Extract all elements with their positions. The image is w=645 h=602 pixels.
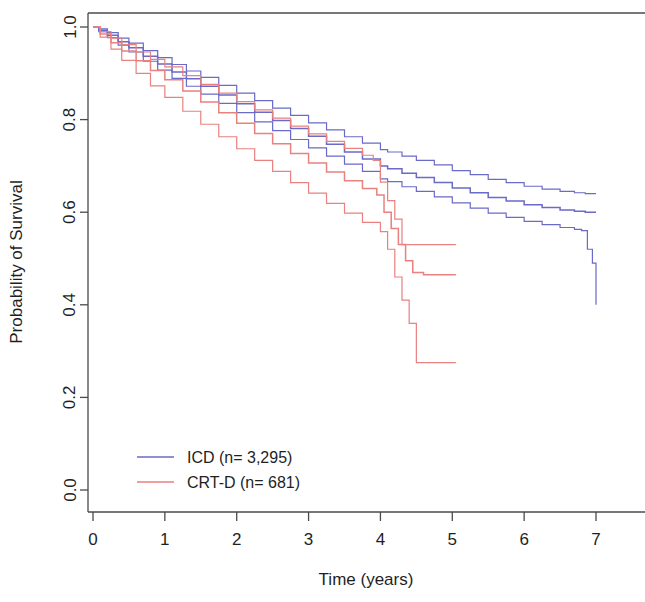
- x-axis-title: Time (years): [319, 570, 414, 589]
- y-axis-ticks: 0.00.20.40.60.81.0: [61, 15, 89, 502]
- survival-curve: [93, 27, 456, 245]
- x-tick-label: 2: [232, 530, 241, 549]
- kaplan-meier-plot: 0.00.20.40.60.81.0 01234567 Time (years)…: [0, 0, 645, 602]
- legend-label: ICD (n= 3,295): [187, 449, 292, 466]
- y-axis-title: Probability of Survival: [7, 180, 26, 343]
- x-tick-label: 3: [304, 530, 313, 549]
- y-tick-label: 0.8: [61, 108, 80, 132]
- x-tick-label: 6: [519, 530, 528, 549]
- survival-curve: [93, 27, 596, 305]
- x-tick-label: 4: [376, 530, 385, 549]
- y-tick-label: 0.0: [61, 478, 80, 502]
- chart-legend: ICD (n= 3,295)CRT-D (n= 681): [137, 449, 300, 491]
- y-tick-label: 0.2: [61, 386, 80, 410]
- y-tick-label: 1.0: [61, 15, 80, 39]
- survival-curve: [93, 27, 596, 212]
- y-tick-label: 0.6: [61, 200, 80, 224]
- x-axis-ticks: 01234567: [88, 512, 600, 549]
- x-tick-label: 5: [448, 530, 457, 549]
- x-tick-label: 0: [88, 530, 97, 549]
- plot-frame: [88, 13, 645, 512]
- legend-label: CRT-D (n= 681): [187, 474, 300, 491]
- survival-curve: [93, 27, 596, 194]
- survival-curves: [93, 27, 596, 363]
- survival-curve: [93, 27, 456, 363]
- survival-chart-figure: 0.00.20.40.60.81.0 01234567 Time (years)…: [0, 0, 645, 602]
- y-tick-label: 0.4: [61, 293, 80, 317]
- x-tick-label: 1: [160, 530, 169, 549]
- x-tick-label: 7: [591, 530, 600, 549]
